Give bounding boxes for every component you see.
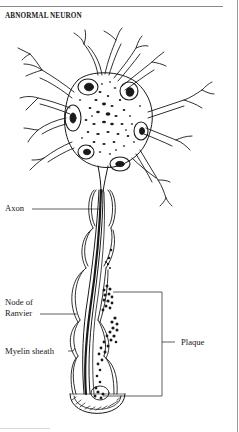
- label-axon: Axon: [5, 203, 24, 213]
- label-plaque: Plaque: [181, 337, 204, 347]
- neuron-illustration: [0, 0, 239, 432]
- axon-terminal: [70, 386, 125, 414]
- cell-body: [65, 73, 153, 171]
- label-node-line1: Node of: [5, 297, 33, 307]
- plaque-bracket: [103, 292, 162, 396]
- label-node-line2: Ranvier: [5, 308, 32, 318]
- label-myelin-sheath: Myelin sheath: [5, 346, 54, 356]
- myelin-sheath: [70, 190, 117, 394]
